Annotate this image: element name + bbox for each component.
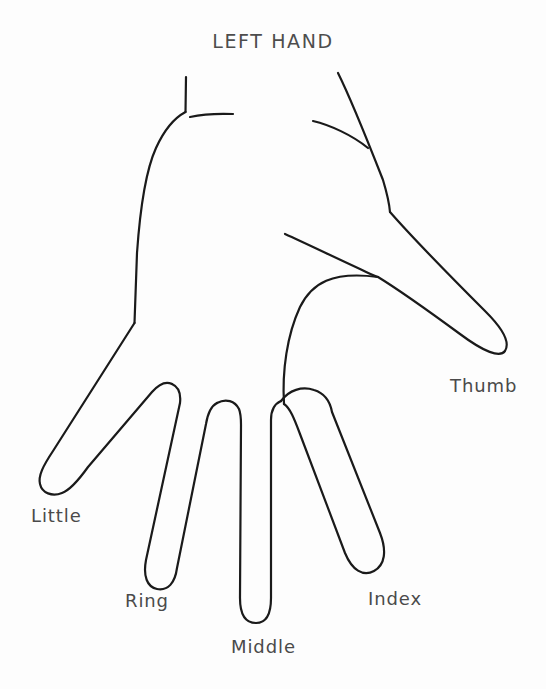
thumb-outline xyxy=(378,212,507,354)
label-thumb: Thumb xyxy=(450,375,517,396)
little-finger-outline xyxy=(40,323,172,495)
label-ring: Ring xyxy=(125,590,169,611)
middle-finger-outline xyxy=(217,401,281,623)
ring-finger-outline xyxy=(145,384,217,589)
wrist-right-cuff-line xyxy=(313,121,368,148)
thumb-web-crease xyxy=(284,275,378,404)
index-finger-outline xyxy=(281,388,384,573)
hand-diagram-page: LEFT HAND xyxy=(0,0,546,689)
palm-left-edge xyxy=(135,112,186,323)
wrist-left-stub-line xyxy=(186,77,187,112)
label-little: Little xyxy=(31,505,82,526)
left-hand-outline-drawing xyxy=(0,0,546,689)
label-middle: Middle xyxy=(231,636,296,657)
wrist-right-edge-line xyxy=(338,73,390,212)
hand-upper-right-contour xyxy=(285,234,378,277)
label-index: Index xyxy=(368,588,422,609)
wrist-left-cuff-line xyxy=(190,114,233,117)
